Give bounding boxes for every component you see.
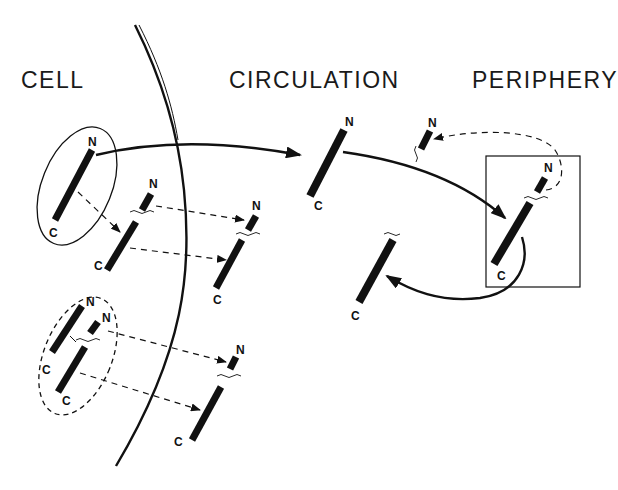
arrow-circulation-to-periphery [343, 152, 505, 218]
cleaved-pair-cell: N N C C [23, 286, 132, 426]
cleavage-mark-icon [524, 197, 548, 200]
cleavage-mark-icon [384, 233, 400, 236]
molecule-bar [55, 150, 92, 220]
n-terminus-label: N [88, 135, 97, 149]
cleavage-mark-icon [415, 146, 418, 162]
n-terminus-label: N [544, 161, 553, 175]
dashed-arrow-c-fragment-lower [80, 373, 200, 410]
cleaved-molecule-circulation: N C [213, 199, 261, 307]
cleavage-mark-icon [217, 375, 241, 378]
n-fragment-periphery: N [415, 116, 437, 162]
n-terminus-label: N [236, 343, 245, 357]
cell-membrane [116, 25, 187, 466]
c-terminus-label: C [314, 199, 323, 213]
cleaved-molecule-cell: N C [94, 177, 158, 273]
n-terminus-label: N [102, 311, 111, 325]
arrow-cell-to-circulation [96, 144, 300, 155]
dashed-arrow-c-fragment [130, 248, 226, 260]
cleavage-mark-icon [236, 233, 260, 236]
intact-molecule-cell: N C [21, 115, 132, 256]
c-terminus-label: C [49, 226, 58, 240]
n-terminus-label: N [345, 115, 354, 129]
intact-molecule-circulation: N C [310, 115, 354, 213]
c-terminus-label: C [94, 259, 103, 273]
c-terminus-label: C [174, 435, 183, 449]
c-terminus-label: C [42, 363, 51, 377]
cleavage-mark-icon [76, 339, 100, 342]
c-terminus-label: C [62, 394, 71, 408]
target-box [486, 156, 580, 287]
c-terminus-label: C [351, 309, 360, 323]
cleaved-fragments-circulation-lower: N C [174, 343, 245, 449]
cleavage-mark-icon [130, 211, 154, 214]
solid-ellipse [21, 115, 132, 256]
c-fragment-returned: C [351, 233, 400, 324]
n-terminus-label: N [149, 177, 158, 191]
c-terminus-label: C [213, 293, 222, 307]
n-terminus-label: N [86, 295, 95, 309]
dashed-arrow-n-fragment [156, 206, 244, 220]
n-terminus-label: N [428, 116, 437, 130]
dashed-arrow-intact-to-cleaved [78, 192, 120, 232]
c-terminus-label: C [497, 269, 506, 283]
n-terminus-label: N [252, 199, 261, 213]
